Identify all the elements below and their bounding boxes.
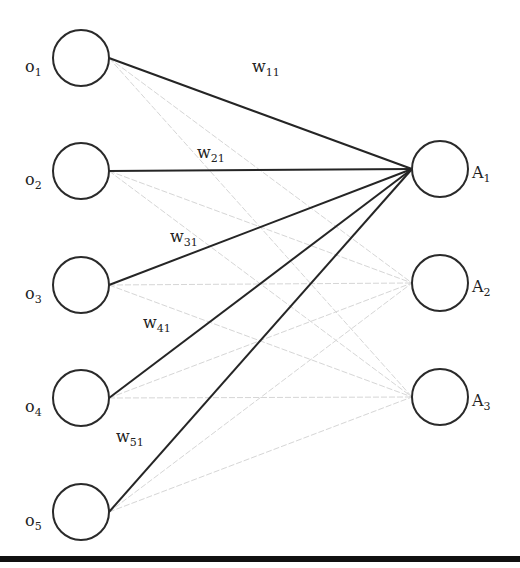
input-node-o1 [53,30,109,86]
input-label-o2-subscript: 2 [35,179,42,192]
output-label-A1: A1 [471,163,491,185]
weight-label-w11-subscript: 11 [266,66,280,79]
input-label-o4-subscript: 4 [35,406,42,419]
edge-o5-A3 [109,397,412,512]
input-label-o2-base: o [25,170,35,189]
output-node-A3 [412,369,468,425]
input-label-o4: o4 [25,397,42,419]
output-label-A2-subscript: 2 [484,286,491,299]
input-label-o5: o5 [25,511,42,533]
weight-label-w41-subscript: 41 [157,322,171,335]
edge-o2-A1 [109,169,412,171]
input-label-o3-subscript: 3 [35,293,42,306]
input-label-o1: o1 [25,57,42,79]
input-node-o4 [53,370,109,426]
weak-edges [109,58,412,512]
neural-network-diagram: o1o2o3o4o5A1A2A3w11w21w31w41w51 [0,0,520,568]
weight-label-w41: w41 [143,313,171,335]
weight-label-w21-subscript: 21 [211,152,225,165]
output-label-A3-subscript: 3 [484,400,491,413]
weight-label-w21: w21 [197,143,225,165]
weight-label-w21-base: w [197,143,211,162]
output-label-A2: A2 [471,277,491,299]
input-label-o1-subscript: 1 [35,66,42,79]
edge-o3-A1 [109,169,412,285]
output-node-A2 [412,255,468,311]
input-label-o3: o3 [25,284,42,306]
output-label-A3: A3 [471,391,491,413]
weight-label-w51-base: w [116,427,130,446]
weight-label-w31-base: w [170,227,184,246]
weight-label-w11: w11 [252,57,280,79]
input-label-o1-base: o [25,57,35,76]
output-label-A1-subscript: 1 [484,172,491,185]
edge-o5-A1 [109,169,412,512]
weight-label-w31: w31 [170,227,198,249]
output-label-A2-base: A [471,277,484,296]
bottom-rule [0,556,520,562]
weight-label-w41-base: w [143,313,157,332]
weight-label-w31-subscript: 31 [184,236,198,249]
input-label-o5-base: o [25,511,35,530]
output-label-A3-base: A [471,391,484,410]
input-label-o5-subscript: 5 [35,520,42,533]
output-node-A1 [412,141,468,197]
input-label-o3-base: o [25,284,35,303]
output-label-A1-base: A [471,163,484,182]
input-label-o4-base: o [25,397,35,416]
weight-label-w51: w51 [116,427,144,449]
input-node-o2 [53,143,109,199]
weight-label-w51-subscript: 51 [130,436,144,449]
input-label-o2: o2 [25,170,42,192]
input-node-o5 [53,484,109,540]
input-node-o3 [53,257,109,313]
weight-label-w11-base: w [252,57,266,76]
